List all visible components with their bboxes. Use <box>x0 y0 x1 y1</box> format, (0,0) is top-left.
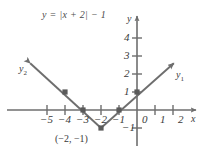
branch-y2-label: y2 <box>19 64 27 77</box>
point-0-1 <box>134 89 139 94</box>
point-neg4-1 <box>62 89 67 94</box>
x-tick-label-neg5: −5 <box>40 114 53 125</box>
branch-y1-label-sub: 1 <box>180 75 184 83</box>
x-tick-label-1: 1 <box>160 114 166 125</box>
equation-title: y = |x + 2| − 1 <box>42 10 106 20</box>
x-tick-label-2: 2 <box>178 114 184 125</box>
y-tick-label-2: 2 <box>124 68 130 79</box>
y-tick-label-1: 1 <box>124 86 130 97</box>
x-tick-label-neg4: −4 <box>58 114 71 125</box>
y-tick-label-3: 3 <box>124 50 130 61</box>
branch-y2-label-sub: 2 <box>23 69 27 77</box>
x-axis-label: x <box>191 114 195 124</box>
y-tick-label-4: 4 <box>124 32 130 43</box>
vertex-annotation: (−2, −1) <box>55 134 88 144</box>
branch-y1-label: y1 <box>176 70 184 83</box>
point-neg1-0 <box>116 107 121 112</box>
absolute-value-graph-figure: y = |x + 2| − 1 y x −5 −4 −3 −2 −1 0 1 2… <box>0 0 207 156</box>
point-vertex <box>98 125 103 130</box>
point-neg3-0 <box>80 107 85 112</box>
y-tick-label-neg1: −1 <box>122 122 135 133</box>
x-tick-label-neg3: −3 <box>76 114 89 125</box>
x-tick-label-neg2: −2 <box>94 114 107 125</box>
y-axis-label: y <box>127 14 131 24</box>
x-tick-label-0: 0 <box>142 114 148 125</box>
